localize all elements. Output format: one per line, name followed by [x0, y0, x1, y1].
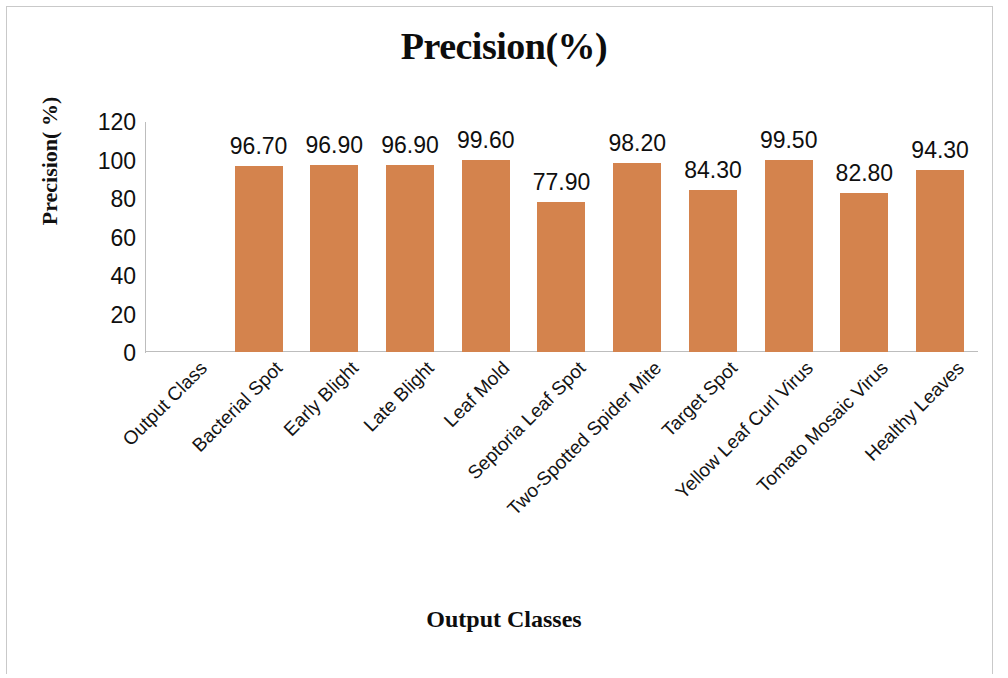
bar[interactable]: [537, 202, 585, 352]
bar-value-label: 96.90: [381, 134, 439, 157]
bar[interactable]: [916, 170, 964, 352]
chart-figure: Precision(%) Precision( %) 1201008060402…: [0, 0, 1008, 678]
bar[interactable]: [310, 165, 358, 352]
y-axis-title: Precision( %): [37, 71, 63, 251]
plot-area: 96.7096.9096.9099.6077.9098.2084.3099.50…: [145, 122, 978, 352]
bar-slot: 82.80: [827, 121, 903, 352]
x-axis-category-label: Tomato Mosaic Virus: [754, 358, 892, 496]
bar[interactable]: [462, 160, 510, 352]
bar[interactable]: [235, 166, 283, 352]
bar[interactable]: [613, 163, 661, 352]
bar-slot: 99.50: [751, 121, 827, 352]
bar-slot: 96.90: [372, 121, 448, 352]
bar[interactable]: [689, 190, 737, 352]
bar-value-label: 98.20: [608, 132, 666, 155]
bar-value-label: 94.30: [911, 139, 969, 162]
y-axis-tick-label: 40: [74, 265, 136, 288]
bar-value-label: 96.70: [230, 135, 288, 158]
y-axis-tick-label: 0: [74, 342, 136, 365]
bar-slot: 96.90: [296, 121, 372, 352]
y-axis-tick-label: 80: [74, 188, 136, 211]
bar[interactable]: [840, 193, 888, 352]
y-axis-tick-label: 120: [74, 111, 136, 134]
x-axis-category-label: Two-Spotted Spider Mite: [504, 358, 665, 519]
bar-slot: 98.20: [599, 121, 675, 352]
bar-value-label: 84.30: [684, 159, 742, 182]
bar-slot: 96.70: [221, 121, 297, 352]
x-axis-category-label: Late Blight: [361, 358, 438, 435]
y-axis-tick-labels: 120100806040200: [68, 122, 136, 353]
chart-title: Precision(%): [0, 24, 1008, 68]
bar[interactable]: [765, 160, 813, 352]
y-axis-tick-label: 100: [74, 150, 136, 173]
bar-slot: 99.60: [448, 121, 524, 352]
bar-slot: 94.30: [902, 121, 978, 352]
y-axis-tick-label: 20: [74, 304, 136, 327]
x-axis-category-label: Leaf Mold: [441, 358, 513, 430]
x-axis-category-label: Target Spot: [658, 358, 740, 440]
x-axis-title: Output Classes: [0, 606, 1008, 633]
x-axis-category-label: Early Blight: [280, 358, 361, 439]
bar-value-label: 99.60: [457, 129, 515, 152]
bar-slot: 77.90: [524, 121, 600, 352]
bar-value-label: 99.50: [760, 129, 818, 152]
bar[interactable]: [386, 165, 434, 352]
x-axis-category-labels: Output ClassBacterial SpotEarly BlightLa…: [145, 354, 978, 554]
bar-slot: 84.30: [675, 121, 751, 352]
bar-value-label: 96.90: [306, 134, 364, 157]
y-axis-tick-label: 60: [74, 227, 136, 250]
bar-value-label: 82.80: [836, 162, 894, 185]
bar-slot: [145, 121, 221, 352]
x-axis-category-label: Yellow Leaf Curl Virus: [672, 358, 816, 502]
bar-value-label: 77.90: [533, 171, 591, 194]
